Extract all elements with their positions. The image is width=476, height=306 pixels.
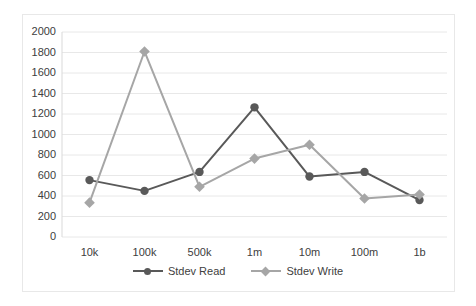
chart-legend: Stdev Read Stdev Write xyxy=(0,265,476,277)
y-tick-label: 1600 xyxy=(22,67,56,78)
x-tick-label: 10m xyxy=(280,247,340,258)
legend-swatch-stdev-write xyxy=(251,265,281,277)
y-tick-label: 1400 xyxy=(22,88,56,99)
y-tick-label: 200 xyxy=(22,211,56,222)
y-tick-label: 2000 xyxy=(22,26,56,37)
y-tick-label: 600 xyxy=(22,170,56,181)
y-tick-label: 0 xyxy=(22,231,56,242)
x-tick-label: 500k xyxy=(170,247,230,258)
x-tick-label: 100k xyxy=(115,247,175,258)
y-tick-label: 800 xyxy=(22,149,56,160)
x-tick-label: 1m xyxy=(225,247,285,258)
legend-item-stdev-write[interactable]: Stdev Write xyxy=(251,265,343,277)
x-tick-label: 100m xyxy=(335,247,395,258)
diamond-marker-icon xyxy=(261,267,271,277)
y-tick-label: 400 xyxy=(22,190,56,201)
y-tick-label: 1200 xyxy=(22,108,56,119)
x-tick-label: 10k xyxy=(60,247,120,258)
x-tick-label: 1b xyxy=(390,247,450,258)
legend-swatch-stdev-read xyxy=(133,265,163,277)
y-tick-label: 1000 xyxy=(22,129,56,140)
legend-label-stdev-write: Stdev Write xyxy=(286,265,343,277)
line-chart: 0200400600800100012001400160018002000 10… xyxy=(0,0,476,306)
legend-label-stdev-read: Stdev Read xyxy=(168,265,225,277)
y-tick-label: 1800 xyxy=(22,47,56,58)
legend-item-stdev-read[interactable]: Stdev Read xyxy=(133,265,225,277)
circle-marker-icon xyxy=(144,268,151,275)
